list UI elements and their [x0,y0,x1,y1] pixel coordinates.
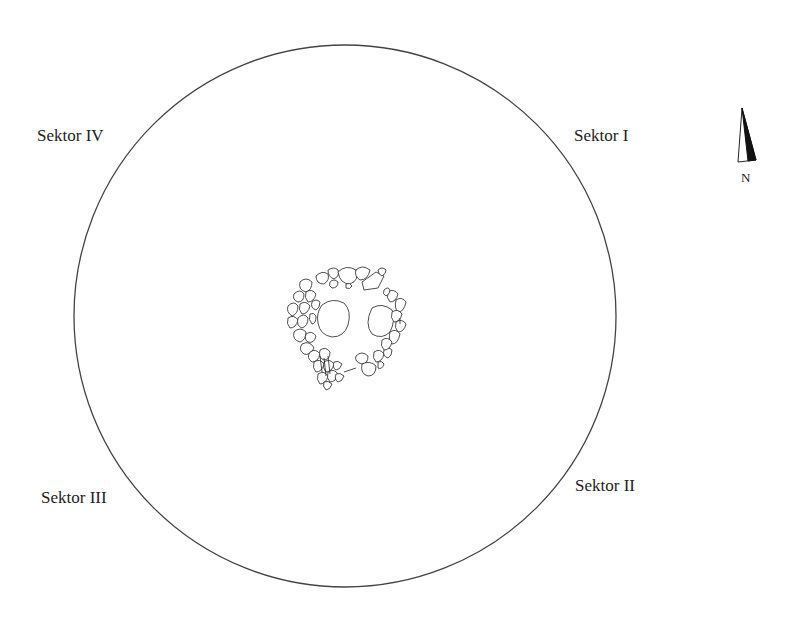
sector-iii-label: Sektor III [41,489,107,506]
north-arrow-icon [734,104,764,174]
excavation-plan [0,0,800,621]
sector-iv-label: Sektor IV [37,127,104,144]
sector-i-label: Sektor I [574,127,628,144]
sector-ii-label: Sektor II [575,477,635,494]
north-label: N [741,170,750,186]
stone-ring-feature [287,267,406,390]
